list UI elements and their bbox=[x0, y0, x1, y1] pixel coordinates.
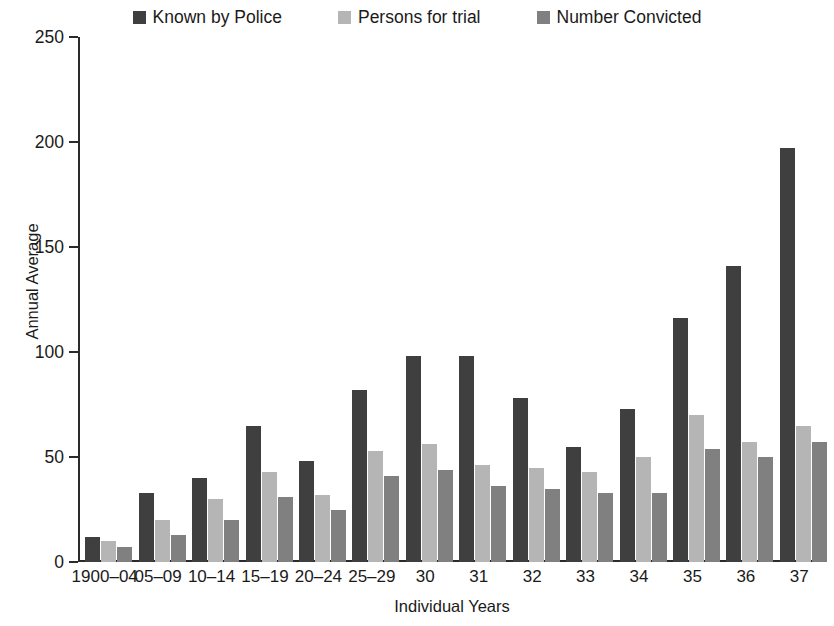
legend-label: Known by Police bbox=[153, 8, 282, 27]
bar[interactable] bbox=[652, 493, 667, 562]
legend-swatch-icon bbox=[133, 11, 146, 24]
bar[interactable] bbox=[299, 461, 314, 562]
bar-group bbox=[192, 37, 239, 562]
y-axis-tick bbox=[69, 456, 78, 458]
bar-group bbox=[299, 37, 346, 562]
bar[interactable] bbox=[192, 478, 207, 562]
x-axis-tick-label: 37 bbox=[763, 566, 834, 587]
y-axis-tick-label: 250 bbox=[8, 28, 64, 46]
bar-group bbox=[566, 37, 613, 562]
bars-layer bbox=[78, 37, 826, 562]
x-axis-tick-labels: 1900–0405–0910–1415–1920–2425–2930313233… bbox=[78, 566, 826, 590]
bar[interactable] bbox=[139, 493, 154, 562]
y-axis-tick bbox=[69, 141, 78, 143]
bar-group bbox=[459, 37, 506, 562]
bar-group bbox=[406, 37, 453, 562]
bar[interactable] bbox=[224, 520, 239, 562]
bar[interactable] bbox=[566, 447, 581, 563]
bar-group bbox=[85, 37, 132, 562]
bar[interactable] bbox=[101, 541, 116, 562]
bar[interactable] bbox=[582, 472, 597, 562]
legend-item[interactable]: Known by Police bbox=[133, 8, 282, 27]
legend-item[interactable]: Number Convicted bbox=[537, 8, 702, 27]
legend-label: Number Convicted bbox=[557, 8, 702, 27]
legend-swatch-icon bbox=[338, 11, 351, 24]
y-axis-tick bbox=[69, 561, 78, 563]
bar[interactable] bbox=[384, 476, 399, 562]
y-axis-tick-label: 100 bbox=[8, 343, 64, 361]
bar-group bbox=[673, 37, 720, 562]
y-axis-tick-label: 150 bbox=[8, 238, 64, 256]
legend-item[interactable]: Persons for trial bbox=[338, 8, 481, 27]
bar-group bbox=[513, 37, 560, 562]
bar[interactable] bbox=[812, 442, 827, 562]
bar-group bbox=[139, 37, 186, 562]
y-axis-tick bbox=[69, 246, 78, 248]
bar[interactable] bbox=[315, 495, 330, 562]
bar[interactable] bbox=[726, 266, 741, 562]
bar[interactable] bbox=[689, 415, 704, 562]
bar[interactable] bbox=[491, 486, 506, 562]
bar[interactable] bbox=[262, 472, 277, 562]
bar[interactable] bbox=[459, 356, 474, 562]
bar[interactable] bbox=[246, 426, 261, 563]
bar-group bbox=[620, 37, 667, 562]
bar[interactable] bbox=[513, 398, 528, 562]
bar[interactable] bbox=[529, 468, 544, 563]
bar[interactable] bbox=[406, 356, 421, 562]
bar-group bbox=[352, 37, 399, 562]
bar[interactable] bbox=[796, 426, 811, 563]
bar[interactable] bbox=[155, 520, 170, 562]
bar[interactable] bbox=[758, 457, 773, 562]
chart-legend: Known by PolicePersons for trialNumber C… bbox=[0, 4, 834, 30]
x-axis-title: Individual Years bbox=[78, 597, 826, 616]
legend-swatch-icon bbox=[537, 11, 550, 24]
bar[interactable] bbox=[636, 457, 651, 562]
bar[interactable] bbox=[278, 497, 293, 562]
bar-chart: Known by PolicePersons for trialNumber C… bbox=[0, 0, 834, 626]
bar[interactable] bbox=[117, 547, 132, 562]
bar-group bbox=[780, 37, 827, 562]
bar[interactable] bbox=[620, 409, 635, 562]
y-axis-tick-label: 0 bbox=[8, 553, 64, 571]
bar[interactable] bbox=[422, 444, 437, 562]
y-axis-tick-label: 200 bbox=[8, 133, 64, 151]
bar[interactable] bbox=[780, 148, 795, 562]
bar[interactable] bbox=[742, 442, 757, 562]
bar[interactable] bbox=[352, 390, 367, 562]
bar-group bbox=[726, 37, 773, 562]
plot-area bbox=[78, 37, 826, 562]
bar[interactable] bbox=[208, 499, 223, 562]
bar[interactable] bbox=[331, 510, 346, 563]
bar[interactable] bbox=[368, 451, 383, 562]
legend-label: Persons for trial bbox=[358, 8, 481, 27]
bar[interactable] bbox=[171, 535, 186, 562]
bar[interactable] bbox=[545, 489, 560, 563]
bar[interactable] bbox=[85, 537, 100, 562]
bar-group bbox=[246, 37, 293, 562]
bar[interactable] bbox=[438, 470, 453, 562]
bar[interactable] bbox=[705, 449, 720, 562]
bar[interactable] bbox=[598, 493, 613, 562]
bar[interactable] bbox=[673, 318, 688, 562]
y-axis-tick bbox=[69, 351, 78, 353]
y-axis-tick-label: 50 bbox=[8, 448, 64, 466]
y-axis-tick bbox=[69, 36, 78, 38]
bar[interactable] bbox=[475, 465, 490, 562]
